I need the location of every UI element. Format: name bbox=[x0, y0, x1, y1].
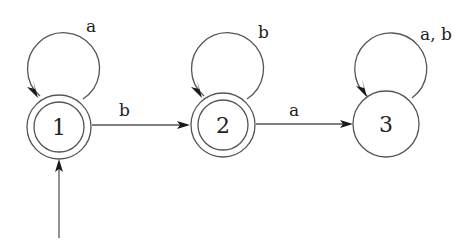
state-label: 2 bbox=[216, 113, 230, 138]
transition-3-3: a, b bbox=[355, 24, 452, 98]
transition-1-1: a bbox=[27, 16, 100, 99]
state-label: 1 bbox=[52, 115, 66, 140]
transition-label: a, b bbox=[420, 24, 452, 44]
transition-label: b bbox=[119, 100, 130, 120]
state-label: 3 bbox=[379, 112, 393, 137]
state-3[interactable]: 3 bbox=[353, 91, 419, 157]
arrowhead-icon bbox=[27, 80, 38, 98]
transition-label: a bbox=[289, 100, 299, 120]
arrowhead-icon bbox=[191, 80, 202, 98]
state-1[interactable]: 1 bbox=[27, 95, 91, 159]
transition-1-2: b bbox=[92, 100, 190, 129]
arrowhead-icon bbox=[356, 79, 367, 97]
transition-label: a bbox=[86, 16, 96, 36]
transition-2-3: a bbox=[256, 100, 353, 128]
start-arrow bbox=[55, 159, 63, 238]
automaton-diagram: a b 1 b a 2 a, b 3 bbox=[0, 0, 476, 250]
transition-2-2: b bbox=[191, 22, 269, 99]
transition-label: b bbox=[258, 22, 269, 42]
state-2[interactable]: 2 bbox=[191, 93, 255, 157]
